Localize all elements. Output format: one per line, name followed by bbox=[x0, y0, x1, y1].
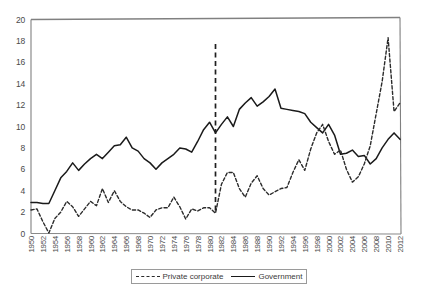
y-tick-label: 2 bbox=[3, 207, 25, 217]
chart-figure: 20181614121086420 1950195219541956195819… bbox=[0, 0, 422, 299]
y-tick-label: 10 bbox=[3, 122, 25, 132]
x-tick-label: 1986 bbox=[241, 236, 250, 253]
x-tick-label: 1982 bbox=[217, 236, 226, 253]
y-tick-label: 20 bbox=[3, 15, 25, 25]
y-tick-label: 14 bbox=[3, 79, 25, 89]
x-tick-label: 2012 bbox=[396, 236, 405, 253]
x-tick-label: 1998 bbox=[313, 236, 322, 253]
x-tick-label: 1964 bbox=[110, 236, 119, 253]
x-tick-label: 1990 bbox=[265, 236, 274, 253]
x-tick-label: 1954 bbox=[51, 236, 60, 253]
series-layer bbox=[31, 38, 400, 233]
y-tick-label: 16 bbox=[3, 57, 25, 67]
legend-swatch-dashed-icon bbox=[136, 276, 160, 277]
x-tick-label: 1978 bbox=[194, 236, 203, 253]
x-tick-label: 1988 bbox=[253, 236, 262, 253]
x-tick-label: 1972 bbox=[158, 236, 167, 253]
chart-legend: Private corporate Government bbox=[131, 269, 307, 284]
x-tick-label: 1968 bbox=[134, 236, 143, 253]
x-tick-label: 2008 bbox=[372, 236, 381, 253]
x-tick-label: 1956 bbox=[63, 236, 72, 253]
y-tick-label: 18 bbox=[3, 36, 25, 46]
x-tick-label: 1996 bbox=[301, 236, 310, 253]
x-tick-label: 1950 bbox=[27, 236, 36, 253]
x-tick-label: 1980 bbox=[206, 236, 215, 253]
legend-item-government: Government bbox=[231, 272, 302, 281]
x-tick-label: 1994 bbox=[289, 236, 298, 253]
x-tick-label: 2000 bbox=[325, 236, 334, 253]
legend-label-government: Government bbox=[258, 272, 302, 281]
y-tick-label: 8 bbox=[3, 143, 25, 153]
x-tick-label: 2006 bbox=[360, 236, 369, 253]
chart-plot-area bbox=[0, 0, 422, 299]
x-tick-label: 1970 bbox=[146, 236, 155, 253]
x-tick-label: 1974 bbox=[170, 236, 179, 253]
legend-swatch-solid-icon bbox=[231, 276, 255, 277]
x-tick-label: 2004 bbox=[348, 236, 357, 253]
series-private-corporate-line bbox=[31, 38, 400, 233]
x-tick-label: 1976 bbox=[182, 236, 191, 253]
x-tick-label: 1962 bbox=[98, 236, 107, 253]
x-tick-label: 2010 bbox=[384, 236, 393, 253]
y-tick-label: 0 bbox=[3, 229, 25, 239]
y-tick-label: 6 bbox=[3, 164, 25, 174]
y-tick-label: 12 bbox=[3, 100, 25, 110]
x-tick-label: 1966 bbox=[122, 236, 131, 253]
x-tick-label: 1960 bbox=[87, 236, 96, 253]
x-tick-label: 1952 bbox=[39, 236, 48, 253]
x-tick-label: 1958 bbox=[75, 236, 84, 253]
x-tick-label: 1984 bbox=[229, 236, 238, 253]
x-tick-label: 2002 bbox=[336, 236, 345, 253]
legend-item-private-corporate: Private corporate bbox=[136, 272, 224, 281]
y-tick-label: 4 bbox=[3, 186, 25, 196]
legend-label-private-corporate: Private corporate bbox=[163, 272, 224, 281]
x-tick-label: 1992 bbox=[277, 236, 286, 253]
